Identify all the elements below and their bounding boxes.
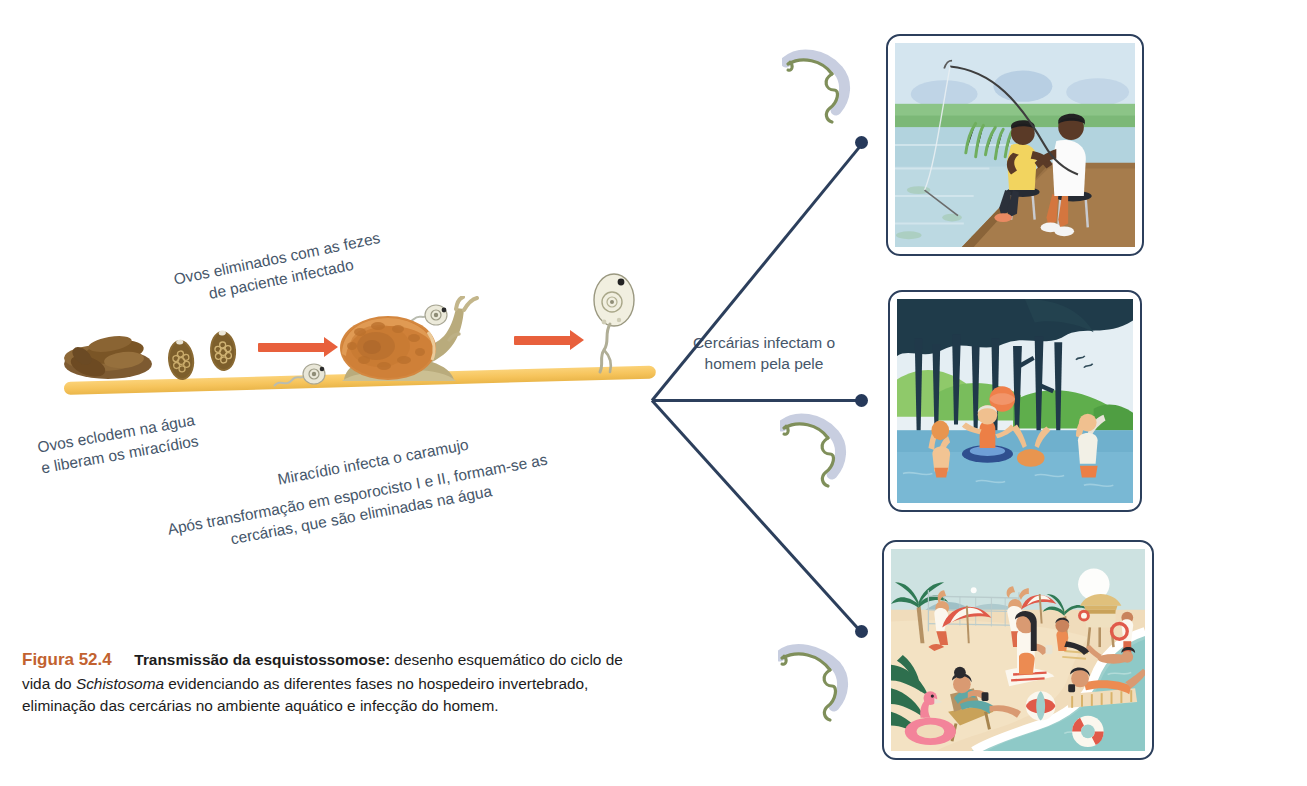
label-eggs-hatch: Ovos eclodem na água e liberam os mirací… <box>36 410 200 479</box>
caption-species: Schistosoma <box>76 675 164 692</box>
connector-line-middle <box>652 399 860 402</box>
schistosoma-egg-icon <box>164 336 198 383</box>
label-skin-line2: homem pela pele <box>660 353 868 374</box>
cercaria-icon <box>778 638 866 724</box>
schistosoma-egg-icon <box>207 327 240 373</box>
connector-dot-top <box>855 136 868 149</box>
cercaria-icon <box>780 406 868 492</box>
red-arrow-icon <box>258 343 326 352</box>
snail-icon <box>336 296 484 388</box>
feces-icon <box>62 330 154 382</box>
panel-fishing-scene[interactable] <box>886 34 1144 256</box>
figure-caption: Figura 52.4 Transmissão da esquistossomo… <box>22 648 642 718</box>
red-arrow-icon <box>514 336 572 345</box>
connector-dot-bottom <box>855 625 868 638</box>
panel-lake-swimming-image <box>897 299 1133 503</box>
cercaria-icon <box>588 272 640 380</box>
panel-beach-scene[interactable] <box>882 540 1154 760</box>
miracidium-icon <box>272 360 330 394</box>
panel-beach-image <box>891 549 1145 751</box>
cercaria-icon <box>782 40 870 126</box>
panel-lake-swimming-scene[interactable] <box>888 290 1142 512</box>
figure-container: Ovos eliminados com as fezes de paciente… <box>0 0 1307 786</box>
figure-title: Transmissão da esquistossomose: <box>134 651 390 668</box>
panel-fishing-image <box>895 43 1135 247</box>
figure-number: Figura 52.4 <box>22 650 112 669</box>
